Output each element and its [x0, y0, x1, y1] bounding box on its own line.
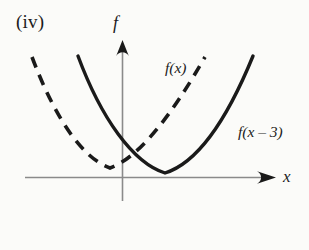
curve-label-fx-minus-3: f(x – 3) — [238, 124, 283, 140]
curve-label-fx: f(x) — [165, 60, 187, 76]
y-axis-label: f — [113, 14, 118, 32]
case-label: (iv) — [16, 12, 44, 31]
x-axis-label: x — [283, 168, 291, 185]
graph-figure: (iv) f f(x) f(x – 3) x — [0, 0, 309, 250]
